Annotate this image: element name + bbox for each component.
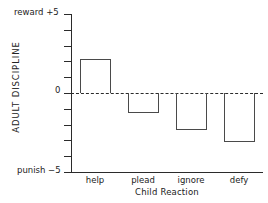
y-axis-tick bbox=[64, 61, 71, 62]
y-axis-tick bbox=[64, 172, 71, 173]
y-axis-tick bbox=[64, 30, 71, 31]
bar-ignore bbox=[176, 93, 207, 130]
x-axis-label-defy: defy bbox=[215, 175, 263, 185]
x-axis-label-ignore: ignore bbox=[167, 175, 215, 185]
y-axis-tick bbox=[64, 156, 71, 157]
x-axis-label-plead: plead bbox=[119, 175, 167, 185]
y-axis-bottom-label: punish −5 bbox=[17, 165, 61, 175]
y-axis-tick bbox=[64, 46, 71, 47]
y-axis-top-label: reward +5 bbox=[14, 7, 59, 17]
bar-defy bbox=[224, 93, 255, 142]
bar-plead bbox=[128, 93, 159, 113]
y-axis-tick bbox=[64, 77, 71, 78]
y-axis-tick bbox=[64, 109, 71, 110]
x-axis-line bbox=[71, 172, 263, 173]
y-axis-tick bbox=[64, 14, 71, 15]
bar-help bbox=[80, 59, 111, 93]
x-axis-label-help: help bbox=[71, 175, 119, 185]
bar-chart-figure: ADULT DISCIPLINE reward +5 punish −5 0 h… bbox=[0, 0, 268, 203]
y-axis-tick bbox=[64, 93, 71, 94]
y-axis-title: ADULT DISCIPLINE bbox=[11, 17, 21, 157]
y-axis-tick bbox=[64, 140, 71, 141]
y-axis-zero-label: 0 bbox=[55, 85, 60, 95]
x-axis-title: Child Reaction bbox=[71, 187, 263, 197]
y-axis-tick bbox=[64, 125, 71, 126]
